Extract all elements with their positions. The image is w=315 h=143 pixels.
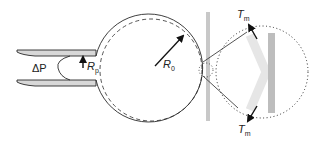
micropipette-aspiration-diagram: ΔP Rp R0 Tm Tm [0,0,315,143]
cell-radius-label: R0 [163,58,175,72]
pipette-upper-wall [17,50,96,56]
reference-sphere-dashed [100,19,202,121]
cell-outline [96,14,203,122]
aspirated-projection [58,56,70,80]
tension-top-label: Tm [237,8,250,22]
contact-surface-bar [206,12,210,121]
pressure-label: ΔP [32,62,47,74]
pipette-lower-wall [17,80,96,86]
magnified-surface-bar [268,33,275,113]
membrane-fold-band [250,35,266,110]
tension-bottom-label: Tm [238,123,251,137]
pipette-radius-label: Rp [87,60,99,75]
